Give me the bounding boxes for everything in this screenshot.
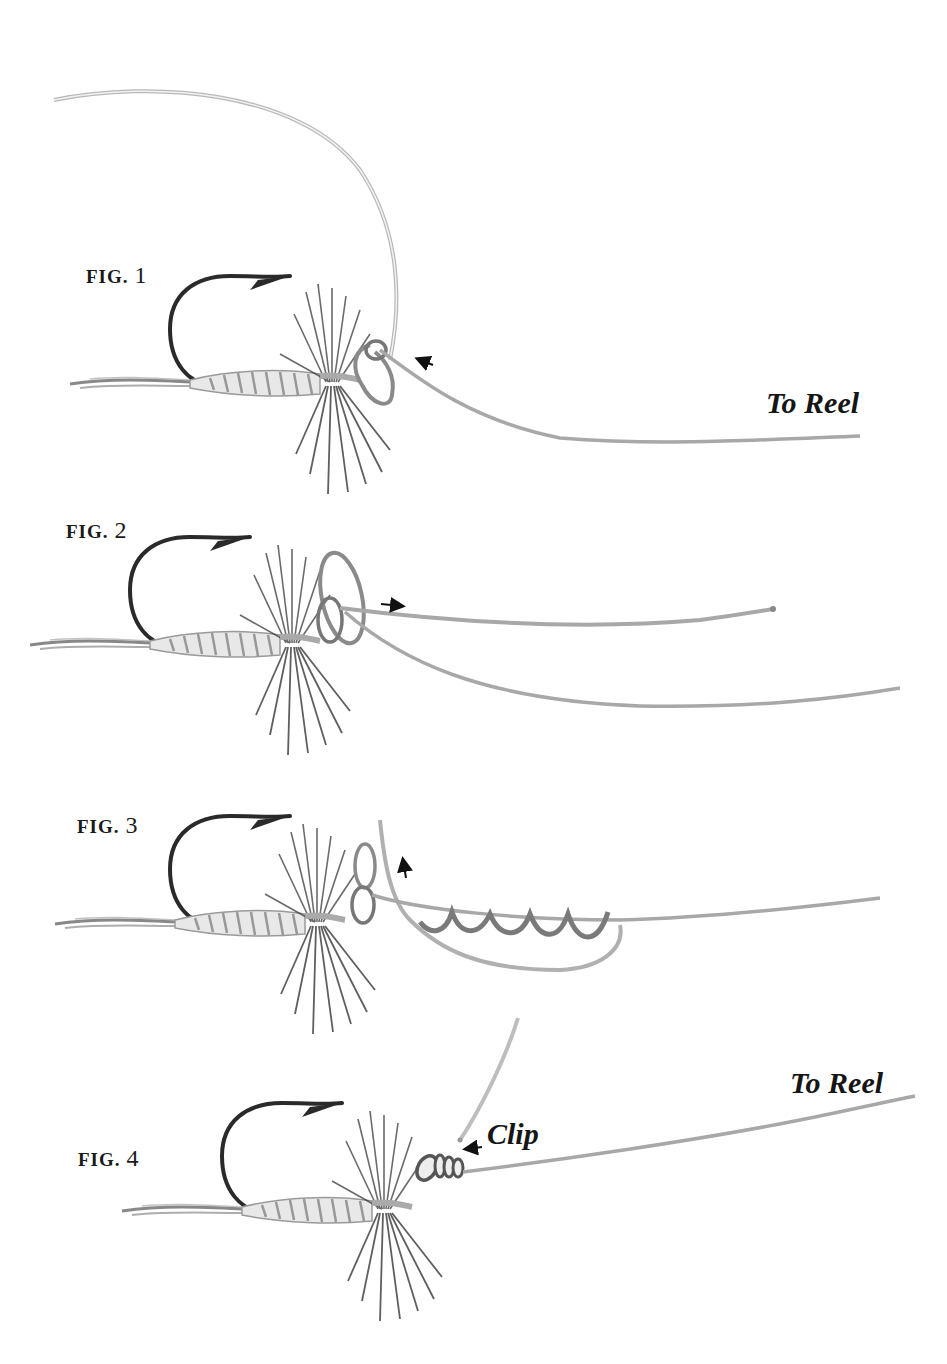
figure-2-label: FIG.2 xyxy=(66,517,128,544)
arrow-right-icon xyxy=(381,604,402,606)
arrow-left-icon xyxy=(418,359,433,365)
fly-icon xyxy=(70,284,390,494)
figure-3-label: FIG.3 xyxy=(77,812,139,839)
figure-4-label: FIG.4 xyxy=(78,1145,140,1172)
arrow-left-icon xyxy=(466,1147,482,1149)
figure-label-number: 3 xyxy=(126,812,139,838)
clip-label: Clip xyxy=(487,1117,539,1151)
figure-2 xyxy=(30,537,900,755)
figure-1-label: FIG.1 xyxy=(86,262,148,289)
fly-icon xyxy=(30,545,350,755)
diagram-canvas xyxy=(0,0,947,1364)
figure-4 xyxy=(122,1018,915,1321)
line-tag-end xyxy=(340,608,773,625)
figure-label-prefix: FIG. xyxy=(77,816,120,837)
line-tag-end xyxy=(54,91,396,360)
figure-3 xyxy=(55,816,880,1034)
hook-icon xyxy=(130,537,250,645)
hook-icon xyxy=(170,276,290,384)
finished-knot-icon xyxy=(413,1152,463,1184)
figure-label-number: 1 xyxy=(135,262,148,288)
fly-icon xyxy=(122,1111,442,1321)
fly-icon xyxy=(55,824,375,1034)
figure-label-number: 2 xyxy=(115,517,128,543)
to-reel-label-2: To Reel xyxy=(790,1066,883,1100)
hook-icon xyxy=(222,1103,342,1211)
line-loop xyxy=(355,844,375,888)
figure-label-prefix: FIG. xyxy=(78,1149,121,1170)
figure-label-prefix: FIG. xyxy=(66,521,109,542)
figure-label-prefix: FIG. xyxy=(86,266,129,287)
figure-label-number: 4 xyxy=(127,1145,140,1171)
figure-1 xyxy=(54,91,860,494)
knot-diagram: FIG.1 To Reel FIG.2 FIG.3 FIG.4 Clip To … xyxy=(0,0,947,1364)
hook-icon xyxy=(170,816,290,924)
arrow-up-icon xyxy=(403,860,406,878)
line-tag-end xyxy=(380,820,621,970)
to-reel-label-1: To Reel xyxy=(766,386,859,420)
